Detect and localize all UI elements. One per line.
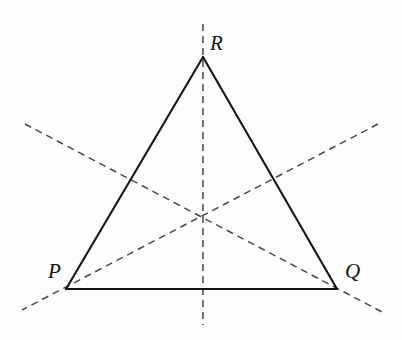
figure-canvas [0, 0, 402, 340]
vertex-label-p: P [48, 261, 61, 282]
vertex-label-r: R [210, 33, 223, 54]
vertex-label-q: Q [345, 261, 360, 282]
geometry-figure: R P Q [0, 0, 402, 340]
